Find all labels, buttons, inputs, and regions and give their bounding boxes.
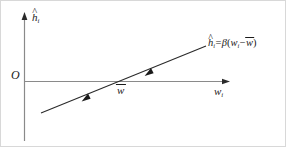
equation-minus-sign: −	[239, 37, 246, 48]
regression-equation-label: ^ h i=β(wi− w )	[208, 38, 257, 49]
equation-close-paren: )	[253, 37, 257, 48]
x-axis-label: wi	[214, 86, 223, 99]
equation-equals-sign: =	[215, 37, 222, 48]
bar-accent-icon: w	[117, 85, 124, 96]
hat-accent-icon: ^ h	[32, 12, 38, 23]
equation-term2-bar-icon: w	[246, 38, 253, 49]
equation-term2-base: w	[246, 37, 253, 48]
equation-lhs-hat-icon: ^ h	[208, 38, 213, 49]
x-axis-label-subscript: i	[221, 91, 223, 98]
regression-line-figure: ^ h i wi O w ^ h i=β(wi− w )	[0, 0, 286, 147]
mean-wage-base: w	[117, 84, 124, 96]
y-axis-arrowhead	[22, 12, 28, 20]
overline-glyph	[245, 37, 255, 38]
circumflex-glyph: ^	[32, 7, 37, 17]
circumflex-glyph: ^	[208, 33, 213, 43]
overline-glyph	[116, 84, 126, 85]
mean-wage-label: w	[117, 85, 124, 96]
origin-label: O	[11, 69, 20, 81]
y-axis-label: ^ h i	[32, 12, 39, 25]
plot-canvas	[1, 1, 286, 147]
regression-line	[41, 46, 206, 113]
equation-term1-base: w	[231, 37, 238, 48]
x-axis-arrowhead	[222, 79, 230, 85]
